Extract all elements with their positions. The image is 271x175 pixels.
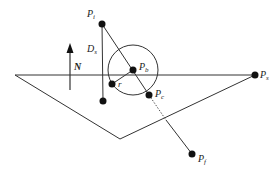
- label-pi: Pi: [86, 8, 95, 21]
- label-pf: Pf: [197, 153, 207, 166]
- normal-label: N: [73, 61, 82, 72]
- point-pc: [146, 92, 153, 99]
- triangle-plane: [15, 75, 255, 139]
- radius-line: [112, 70, 133, 84]
- distance-label: Ds: [86, 43, 97, 56]
- normal-arrow-icon: [67, 43, 74, 53]
- point-pi: [99, 21, 106, 28]
- point-pb: [130, 67, 137, 74]
- point-radius-end: [109, 81, 116, 88]
- label-pb: Pb: [138, 61, 149, 74]
- distance-line: [102, 24, 103, 101]
- segment-plane-pf: [166, 120, 192, 154]
- label-ps: Ps: [259, 69, 269, 82]
- point-distance-end: [100, 98, 107, 105]
- point-ps: [252, 72, 259, 79]
- label-pc: Pc: [154, 88, 165, 101]
- geometry-diagram: N Ds r Pi Pb Pc Ps Pf: [0, 0, 271, 175]
- point-pf: [189, 151, 196, 158]
- radius-label: r: [118, 79, 122, 89]
